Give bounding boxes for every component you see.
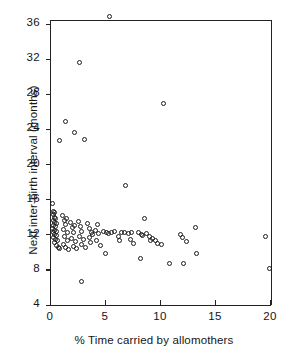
data-point [184,239,189,244]
y-axis-tick-label: 4 [10,297,40,309]
y-axis-tick [46,129,51,130]
y-axis-tick [46,199,51,200]
data-point [88,240,93,245]
data-point [76,219,81,224]
x-axis-tick [215,300,216,306]
y-axis-tick-label: 36 [10,16,40,28]
x-axis-tick [50,300,51,306]
data-point [71,230,76,235]
axis-line [271,20,272,305]
axis-line [50,20,271,21]
y-axis-tick [46,24,51,25]
data-point [142,216,147,221]
data-point [181,261,186,266]
data-point [263,234,268,239]
data-point [72,130,77,135]
data-point [77,60,82,65]
data-point [194,251,199,256]
data-point [161,101,166,106]
x-axis-label: % Time carried by allomothers [30,334,278,346]
data-point [79,279,84,284]
data-point [57,246,62,251]
data-point [167,261,172,266]
data-point [74,246,79,251]
data-point [103,251,108,256]
x-axis-tick [270,300,271,306]
axis-line [50,20,51,305]
data-point [107,14,112,19]
y-axis-tick [46,234,51,235]
data-point [159,242,164,247]
data-point [117,238,122,243]
data-point [90,232,95,237]
data-point [81,237,86,242]
x-axis-tick-label: 20 [255,310,285,322]
data-point [63,119,68,124]
data-point [83,245,88,250]
y-axis-tick [46,269,51,270]
x-axis-tick-label: 0 [35,310,65,322]
x-axis-tick [160,300,161,306]
data-point [98,243,103,248]
y-axis-tick [46,164,51,165]
data-point [85,221,90,226]
data-point [138,256,143,261]
y-axis-label: Next inter-birth interval (months) [27,45,39,295]
data-point [82,137,87,142]
y-axis-tick [46,94,51,95]
data-point [79,229,84,234]
data-point [95,222,100,227]
data-point [123,183,128,188]
x-axis-tick [105,300,106,306]
x-axis-tick-label: 15 [200,310,230,322]
data-point [50,201,55,206]
plot-frame: 481216202428323605101520 [0,0,290,361]
y-axis-tick [46,59,51,60]
data-point [131,241,136,246]
data-point [57,138,62,143]
x-axis-tick-label: 5 [90,310,120,322]
data-point [193,225,198,230]
data-point [129,230,134,235]
data-point [66,247,71,252]
x-axis-tick-label: 10 [145,310,175,322]
data-point [112,229,117,234]
data-point [267,266,272,271]
scatter-plot-figure: 481216202428323605101520 Next inter-birt… [0,0,290,361]
